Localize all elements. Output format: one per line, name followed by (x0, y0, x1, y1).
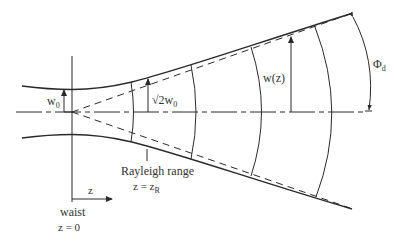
sqrt2w0-label: √2w0 (152, 93, 177, 109)
rayleigh-range-equation: z = zR (133, 180, 160, 195)
waist-label: waist (60, 205, 86, 219)
asymptote-top (72, 14, 350, 112)
z-axis-label: z (88, 184, 93, 196)
w0-label: w0 (47, 94, 60, 110)
divergence-angle-label: Φd (373, 57, 386, 73)
wz-label: w(z) (263, 71, 285, 85)
gaussian-beam-diagram: w0 √2w0 w(z) Φd Rayleigh range z = zR z … (0, 0, 394, 244)
beam-envelope-top (22, 14, 350, 90)
asymptote-bottom (72, 112, 350, 208)
rayleigh-range-label: Rayleigh range (121, 164, 194, 178)
waist-equation: z = 0 (58, 221, 81, 233)
divergence-angle-arc (353, 17, 371, 110)
